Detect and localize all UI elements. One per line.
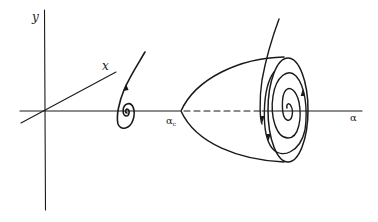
x-axis-label: x — [102, 59, 109, 73]
stable-focus-spiral — [117, 52, 145, 128]
hopf-bifurcation-diagram: y α x αc — [0, 0, 378, 222]
y-axis-label: y — [31, 10, 39, 24]
critical-alpha-label: αc — [166, 115, 177, 127]
arrow-icon — [123, 84, 128, 91]
alpha-axis-label: α — [350, 112, 357, 123]
x-axis — [21, 72, 116, 123]
limit-cycle-paraboloid — [181, 19, 308, 162]
